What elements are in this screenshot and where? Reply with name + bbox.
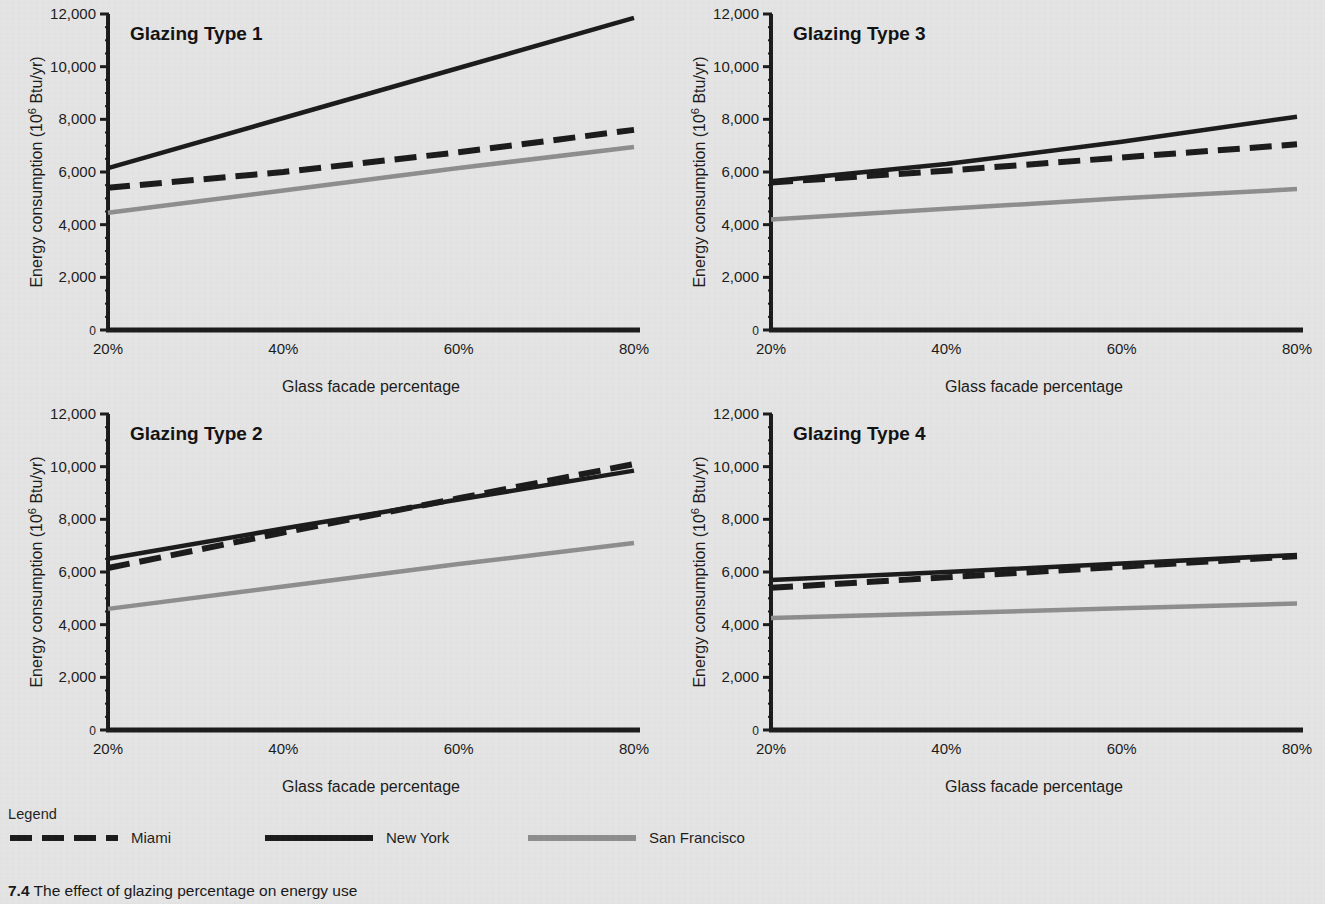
legend-label-new-york: New York — [386, 829, 449, 846]
x-axis-tick-label: 80% — [619, 740, 649, 757]
legend-entry-new-york[interactable]: New York — [263, 829, 449, 846]
legend-title: Legend — [8, 806, 1108, 822]
y-axis-tick-label: 8,000 — [58, 510, 96, 527]
x-axis-title: Glass facade percentage — [945, 378, 1123, 395]
x-axis-tick-label: 40% — [931, 340, 961, 357]
y-axis-tick-label: 10,000 — [713, 458, 759, 475]
chart-panel-3: 02,0004,0006,0008,00010,00012,00020%40%6… — [0, 400, 662, 800]
x-axis-tick-label: 20% — [93, 740, 123, 757]
chart-svg: 02,0004,0006,0008,00010,00012,00020%40%6… — [663, 0, 1325, 400]
y-axis-tick-label: 2,000 — [721, 668, 759, 685]
x-axis-title: Glass facade percentage — [945, 778, 1123, 795]
x-axis-tick-label: 40% — [268, 340, 298, 357]
y-axis-tick-label: 0 — [752, 724, 759, 738]
legend-swatch-gray-icon — [526, 831, 638, 845]
x-axis-tick-label: 60% — [444, 340, 474, 357]
chart-panel-4: 02,0004,0006,0008,00010,00012,00020%40%6… — [663, 400, 1325, 800]
x-axis-tick-label: 20% — [93, 340, 123, 357]
x-axis-tick-label: 20% — [756, 340, 786, 357]
y-axis-tick-label: 6,000 — [58, 163, 96, 180]
caption-number: 7.4 — [8, 882, 30, 899]
y-axis-tick-label: 8,000 — [721, 110, 759, 127]
x-axis-tick-label: 40% — [931, 740, 961, 757]
series-line-san-francisco — [771, 604, 1297, 618]
legend-entry-san-francisco[interactable]: San Francisco — [526, 829, 745, 846]
legend-label-miami: Miami — [131, 829, 171, 846]
panel-title: Glazing Type 3 — [793, 23, 926, 44]
chart-panel-1: 02,0004,0006,0008,00010,00012,00020%40%6… — [0, 0, 662, 400]
panel-title: Glazing Type 2 — [130, 423, 263, 444]
x-axis-title: Glass facade percentage — [282, 378, 460, 395]
y-axis-tick-label: 6,000 — [721, 563, 759, 580]
y-axis-tick-label: 2,000 — [721, 268, 759, 285]
caption-body: The effect of glazing percentage on ener… — [34, 882, 358, 899]
y-axis-tick-label: 4,000 — [58, 216, 96, 233]
x-axis-tick-label: 60% — [444, 740, 474, 757]
y-axis-tick-label: 6,000 — [58, 563, 96, 580]
figure-caption: 7.4 The effect of glazing percentage on … — [8, 882, 357, 900]
y-axis-tick-label: 6,000 — [721, 163, 759, 180]
y-axis-tick-label: 2,000 — [58, 668, 96, 685]
x-axis-title: Glass facade percentage — [282, 778, 460, 795]
y-axis-title: Energy consumption (106 Btu/yr) — [26, 456, 45, 687]
x-axis-tick-label: 60% — [1107, 340, 1137, 357]
panel-title: Glazing Type 4 — [793, 423, 926, 444]
y-axis-tick-label: 12,000 — [50, 5, 96, 22]
x-axis-tick-label: 80% — [1282, 740, 1312, 757]
legend-swatch-solid-icon — [263, 831, 375, 845]
y-axis-title: Energy consumption (106 Btu/yr) — [689, 56, 708, 287]
chart-svg: 02,0004,0006,0008,00010,00012,00020%40%6… — [0, 0, 662, 400]
y-axis-tick-label: 10,000 — [713, 58, 759, 75]
y-axis-tick-label: 10,000 — [50, 58, 96, 75]
y-axis-tick-label: 10,000 — [50, 458, 96, 475]
y-axis-title: Energy consumption (106 Btu/yr) — [689, 456, 708, 687]
y-axis-tick-label: 8,000 — [58, 110, 96, 127]
chart-svg: 02,0004,0006,0008,00010,00012,00020%40%6… — [663, 400, 1325, 800]
series-line-san-francisco — [771, 189, 1297, 219]
y-axis-tick-label: 4,000 — [721, 616, 759, 633]
y-axis-tick-label: 8,000 — [721, 510, 759, 527]
svg-text:Energy consumption (106 Btu/yr: Energy consumption (106 Btu/yr) — [689, 456, 708, 687]
legend-label-san-francisco: San Francisco — [649, 829, 745, 846]
chart-svg: 02,0004,0006,0008,00010,00012,00020%40%6… — [0, 400, 662, 800]
series-line-miami — [771, 144, 1297, 182]
figure-glazing-energy: 02,0004,0006,0008,00010,00012,00020%40%6… — [0, 0, 1325, 904]
y-axis-tick-label: 12,000 — [50, 405, 96, 422]
x-axis-tick-label: 20% — [756, 740, 786, 757]
y-axis-tick-label: 0 — [89, 724, 96, 738]
y-axis-tick-label: 0 — [89, 324, 96, 338]
y-axis-tick-label: 4,000 — [58, 616, 96, 633]
x-axis-tick-label: 80% — [1282, 340, 1312, 357]
panel-title: Glazing Type 1 — [130, 23, 263, 44]
y-axis-tick-label: 0 — [752, 324, 759, 338]
svg-text:Energy consumption (106 Btu/yr: Energy consumption (106 Btu/yr) — [26, 56, 45, 287]
y-axis-tick-label: 12,000 — [713, 405, 759, 422]
y-axis-tick-label: 2,000 — [58, 268, 96, 285]
y-axis-tick-label: 4,000 — [721, 216, 759, 233]
y-axis-title: Energy consumption (106 Btu/yr) — [26, 56, 45, 287]
legend: Legend Miami New York San Francisco — [8, 806, 1108, 859]
chart-panel-2: 02,0004,0006,0008,00010,00012,00020%40%6… — [663, 0, 1325, 400]
legend-swatch-dashed-icon — [8, 831, 120, 845]
x-axis-tick-label: 40% — [268, 740, 298, 757]
y-axis-tick-label: 12,000 — [713, 5, 759, 22]
legend-entry-miami[interactable]: Miami — [8, 829, 171, 846]
svg-text:Energy consumption (106 Btu/yr: Energy consumption (106 Btu/yr) — [26, 456, 45, 687]
legend-row: Miami New York San Francisco — [8, 829, 1108, 859]
x-axis-tick-label: 80% — [619, 340, 649, 357]
x-axis-tick-label: 60% — [1107, 740, 1137, 757]
svg-text:Energy consumption (106 Btu/yr: Energy consumption (106 Btu/yr) — [689, 56, 708, 287]
